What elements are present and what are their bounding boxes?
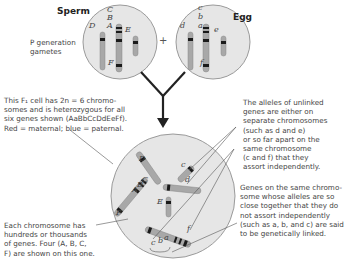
sperm-gene-F: F [108,58,114,67]
sperm-gene-D: D [89,21,95,30]
sperm-title: Sperm [57,6,90,16]
egg-chromosome-long [203,24,209,72]
f1-gene-b-linked: b [158,236,163,245]
egg-gene-c: c [198,3,202,12]
egg-gene-e: e [214,25,219,34]
sperm-chromosome-E [133,36,138,56]
sperm-chromosome-D [100,32,105,70]
f1-chromosome-E [166,197,171,217]
egg-gene-d: d [180,21,185,30]
sperm-chromosome-long [116,24,122,72]
f1-cell-note: This F₁ cell has 2n = 6 chromo- somes an… [4,96,164,133]
egg-chromosome-d [188,32,193,70]
egg-gene-a: a [198,21,203,30]
chromosome-genes-note: Each chromosome has hundreds or thousand… [4,221,114,258]
egg-title: Egg [233,12,252,22]
f1-gene-c: c [181,160,185,169]
f1-gene-A: A [132,185,138,194]
f1-gene-E: E [157,197,163,206]
f1-gene-c-linked: c [151,238,155,247]
f1-gene-F: F [116,208,122,217]
plus-sign: + [159,35,167,46]
sperm-gene-E: E [125,25,131,34]
linked-genes-note: Genes on the same chromo- some whose all… [240,183,346,238]
egg-chromosome-e [221,36,226,56]
f1-gene-d: d [185,175,190,184]
egg-gene-f: f [200,58,203,67]
f1-gene-D: D [139,154,145,163]
sperm-gene-A: A [107,21,113,30]
f1-gene-f: f [187,224,190,233]
f1-gene-a-linked: a [164,233,169,242]
p-generation-label: P generation gametes [30,38,90,56]
unlinked-genes-note: The alleles of unlinked genes are either… [243,98,346,172]
egg-gene-b: b [198,12,203,21]
